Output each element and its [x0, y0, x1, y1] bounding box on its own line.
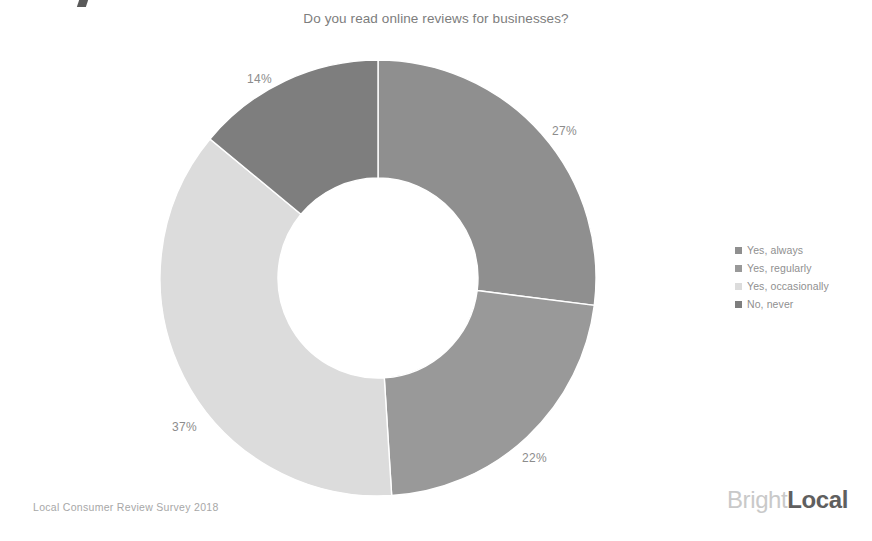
legend-item-yes-occasionally: Yes, occasionally	[735, 277, 870, 295]
slice-label-yes-occasionally: 37%	[172, 420, 197, 434]
slice-label-no-never: 14%	[247, 72, 272, 86]
legend-item-label: No, never	[747, 298, 793, 310]
logo-word-local: Local	[787, 486, 848, 513]
slice-label-yes-always: 27%	[552, 124, 577, 138]
donut-chart-svg	[160, 60, 596, 496]
legend-swatch-icon	[735, 301, 742, 308]
chart-legend: Yes, always Yes, regularly Yes, occasion…	[735, 241, 870, 313]
brightlocal-logo: BrightLocal	[727, 486, 848, 514]
source-note: Local Consumer Review Survey 2018	[33, 501, 219, 513]
legend-swatch-icon	[735, 265, 742, 272]
slice-label-yes-regularly: 22%	[522, 451, 547, 465]
legend-item-label: Yes, always	[747, 244, 803, 256]
donut-slice-0	[378, 60, 596, 305]
chart-title: Do you read online reviews for businesse…	[0, 11, 872, 26]
logo-word-bright: Bright	[727, 486, 787, 513]
scan-artifact-mark	[77, 0, 88, 7]
legend-swatch-icon	[735, 247, 742, 254]
donut-slice-1	[384, 291, 594, 496]
legend-item-no-never: No, never	[735, 295, 870, 313]
legend-item-yes-regularly: Yes, regularly	[735, 259, 870, 277]
legend-swatch-icon	[735, 283, 742, 290]
legend-item-label: Yes, occasionally	[747, 280, 829, 292]
legend-item-label: Yes, regularly	[747, 262, 812, 274]
donut-chart	[160, 60, 596, 496]
legend-item-yes-always: Yes, always	[735, 241, 870, 259]
